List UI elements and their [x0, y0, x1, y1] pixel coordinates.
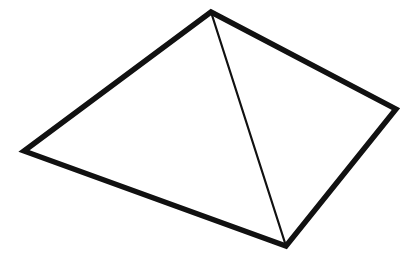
canvas-background — [0, 0, 420, 265]
pyramid-line-drawing — [0, 0, 420, 265]
figure-canvas — [0, 0, 420, 265]
